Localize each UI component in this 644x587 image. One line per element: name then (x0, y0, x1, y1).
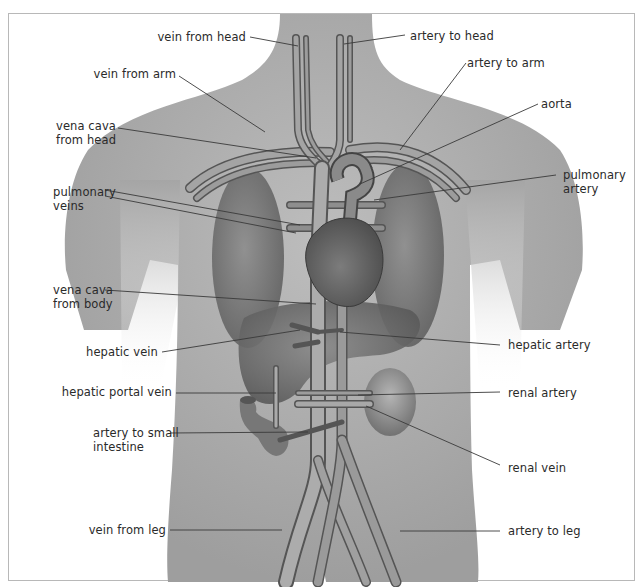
label-hepatic-vein: hepatic vein (60, 345, 158, 359)
label-vena-cava-from-body: vena cava from body (53, 283, 113, 311)
label-vein-from-leg: vein from leg (60, 523, 166, 537)
label-renal-vein: renal vein (508, 461, 566, 475)
label-vein-from-head: vein from head (140, 30, 246, 44)
label-vena-cava-from-head: vena cava from head (56, 119, 116, 147)
label-hepatic-artery: hepatic artery (508, 338, 591, 352)
label-artery-to-head: artery to head (410, 29, 494, 43)
label-pulmonary-veins: pulmonary veins (53, 185, 116, 213)
label-renal-artery: renal artery (508, 386, 577, 400)
label-aorta: aorta (541, 97, 572, 111)
label-artery-to-leg: artery to leg (508, 524, 581, 538)
label-pulmonary-artery: pulmonary artery (563, 168, 626, 196)
label-artery-to-small-intestine: artery to small intestine (93, 426, 179, 454)
label-artery-to-arm: artery to arm (467, 56, 545, 70)
label-hepatic-portal-vein: hepatic portal vein (50, 385, 172, 399)
label-vein-from-arm: vein from arm (70, 67, 176, 81)
